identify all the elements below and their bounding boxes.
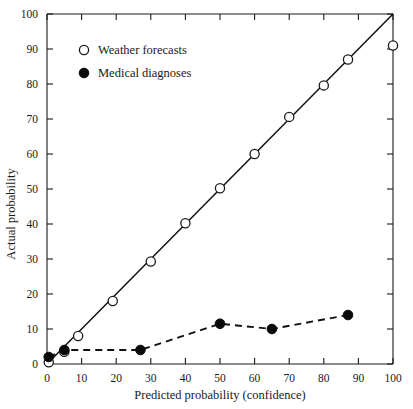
medical-diagnoses-series <box>44 310 353 362</box>
x-axis-ticks <box>47 358 393 364</box>
data-point-weather-forecast <box>343 55 352 64</box>
chart-legend: Weather forecasts Medical diagnoses <box>79 43 191 80</box>
x-tick-label: 60 <box>249 372 261 384</box>
x-axis-tick-labels: 0102030405060708090100 <box>44 372 402 384</box>
y-tick-label: 70 <box>27 113 39 125</box>
y-tick-label: 20 <box>27 288 39 300</box>
x-tick-label: 0 <box>44 372 50 384</box>
data-point-weather-forecast <box>319 81 328 90</box>
data-point-weather-forecast <box>250 149 259 158</box>
calibration-chart: 0102030405060708090100 01020304050607080… <box>0 0 413 409</box>
y-tick-label: 40 <box>27 218 39 230</box>
y-tick-label: 10 <box>27 323 39 335</box>
x-tick-label: 10 <box>76 372 88 384</box>
data-point-medical-diagnosis <box>267 324 277 334</box>
right-axis-ticks <box>387 14 393 364</box>
data-point-weather-forecast <box>285 112 294 121</box>
data-point-medical-diagnosis <box>60 345 70 355</box>
x-tick-label: 40 <box>180 372 192 384</box>
data-point-medical-diagnosis <box>343 310 353 320</box>
y-tick-label: 50 <box>27 183 39 195</box>
data-point-medical-diagnosis <box>44 352 54 362</box>
x-tick-label: 100 <box>384 372 402 384</box>
data-point-medical-diagnosis <box>136 345 146 355</box>
y-tick-label: 100 <box>21 8 39 20</box>
y-tick-label: 60 <box>27 148 39 160</box>
x-tick-label: 80 <box>318 372 330 384</box>
y-tick-label: 0 <box>32 358 38 370</box>
x-tick-label: 90 <box>353 372 365 384</box>
legend-marker-medical-diagnoses <box>79 68 89 78</box>
data-point-weather-forecast <box>181 219 190 228</box>
data-point-weather-forecast <box>108 296 117 305</box>
legend-marker-weather-forecasts <box>79 45 88 54</box>
legend-label-medical-diagnoses: Medical diagnoses <box>98 66 192 80</box>
y-axis-title: Actual probability <box>4 168 18 260</box>
y-tick-label: 80 <box>27 78 39 90</box>
chart-svg: 0102030405060708090100 01020304050607080… <box>0 0 413 409</box>
y-axis-tick-labels: 0102030405060708090100 <box>21 8 39 370</box>
x-tick-label: 50 <box>214 372 226 384</box>
x-axis-title: Predicted probability (confidence) <box>134 388 305 402</box>
data-point-weather-forecast <box>74 331 83 340</box>
legend-label-weather-forecasts: Weather forecasts <box>98 43 187 57</box>
y-tick-label: 90 <box>27 43 39 55</box>
x-tick-label: 70 <box>283 372 295 384</box>
data-point-medical-diagnosis <box>215 319 225 329</box>
y-axis-ticks <box>47 14 53 364</box>
data-point-weather-forecast <box>215 184 224 193</box>
y-tick-label: 30 <box>27 253 39 265</box>
x-tick-label: 20 <box>110 372 122 384</box>
medical-diagnoses-line <box>49 315 348 357</box>
data-point-weather-forecast <box>146 257 155 266</box>
data-point-weather-forecast <box>388 41 397 50</box>
x-tick-label: 30 <box>145 372 157 384</box>
top-axis-ticks <box>47 14 393 20</box>
